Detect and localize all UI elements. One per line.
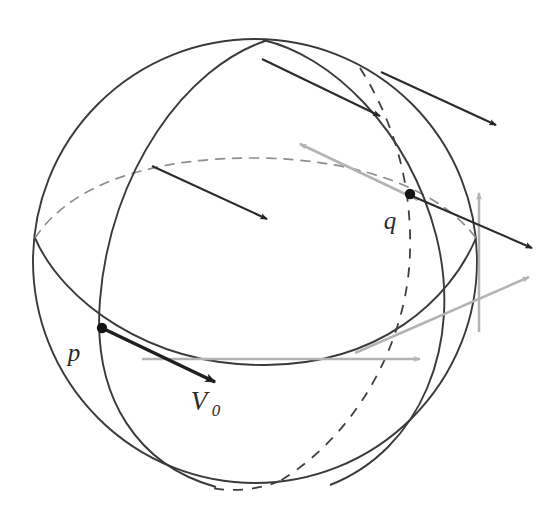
dark-vectors-group [104, 59, 532, 382]
label-v0: V 0 [191, 386, 221, 420]
meridian-front-right [263, 40, 444, 485]
sphere-outline [33, 39, 477, 483]
label-v0-subscript: 0 [212, 401, 221, 420]
meridian-back-dashed [280, 68, 410, 481]
label-p: p [66, 339, 81, 366]
labels-group: p q V 0 [66, 207, 397, 420]
dark-vector-at-q [412, 196, 532, 248]
sphere-parallel-transport-diagram: p q V 0 [0, 0, 555, 509]
points-group [97, 189, 415, 333]
dark-vector-upper-left [152, 166, 267, 219]
meridian-front-left [99, 40, 268, 487]
meridian-front-left-group [99, 40, 268, 487]
dark-vector-top-right [381, 72, 496, 125]
label-q: q [384, 207, 397, 234]
gray-vector-up-left [300, 144, 418, 200]
gray-vector-up-right [355, 277, 529, 353]
sphere-outline-group [33, 39, 477, 483]
dark-vector-v0-at-p [104, 329, 215, 382]
point-p-marker [97, 323, 107, 333]
meridian-back-dashed-group [212, 68, 410, 490]
meridian-front-right-group [263, 40, 444, 485]
figure-root: p q V 0 [0, 0, 555, 509]
light-vectors-group [142, 144, 529, 359]
point-q-marker [405, 189, 415, 199]
label-v0-base: V [191, 386, 211, 416]
